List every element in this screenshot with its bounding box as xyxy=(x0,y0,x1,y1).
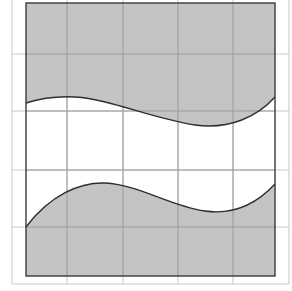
grid-diagram xyxy=(0,0,292,291)
diagram-canvas xyxy=(0,0,292,291)
lower-shaded-region xyxy=(26,183,275,276)
upper-shaded-region xyxy=(26,3,275,126)
